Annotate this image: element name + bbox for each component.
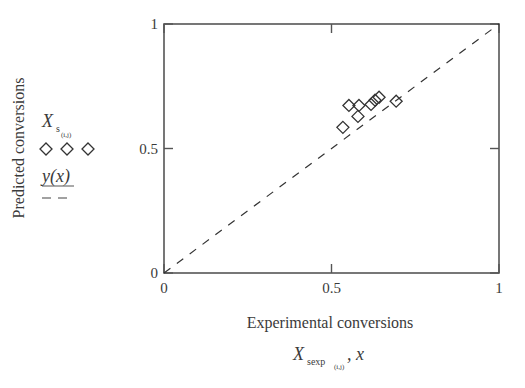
diamond-marker-icon [40, 143, 94, 155]
x-axis-title: Experimental conversions [247, 314, 414, 332]
legend: X s (i,j) y(x) [40, 111, 94, 198]
x-symbol-sub: sexp [307, 356, 325, 367]
parity-line-series [164, 24, 499, 273]
legend-symbol: X [41, 111, 54, 131]
y-tick-label: 0.5 [139, 141, 158, 157]
x-symbol-suffix: , x [347, 344, 364, 364]
data-point [337, 121, 349, 133]
y-tick-label: 1 [151, 16, 159, 32]
y-tick-label: 0 [151, 265, 159, 281]
x-symbol-subsub: (i,j) [334, 363, 345, 371]
x-tick-label: 1 [495, 280, 503, 296]
y-tick-labels: 00.51 [139, 16, 158, 281]
legend-subsub: (i,j) [61, 131, 72, 139]
data-point [61, 143, 73, 155]
data-points-series [337, 91, 402, 133]
data-point [352, 110, 364, 122]
legend-sub: s [56, 123, 60, 134]
y-axis-title: Predicted conversions [10, 78, 27, 219]
legend-item-measured: X s (i,j) [40, 111, 94, 155]
data-point [82, 143, 94, 155]
x-tick-label: 0 [160, 280, 168, 296]
legend-line-label: y(x) [40, 166, 70, 187]
scatter-chart: 00.51 00.51 Predicted conversions Experi… [0, 0, 525, 388]
x-symbol-main: X [292, 344, 305, 364]
x-tick-label: 0.5 [322, 280, 341, 296]
x-tick-labels: 00.51 [160, 280, 503, 296]
data-point [40, 143, 52, 155]
x-axis-symbol: X sexp (i,j) , x [292, 344, 364, 371]
legend-item-line: y(x) [40, 166, 74, 198]
